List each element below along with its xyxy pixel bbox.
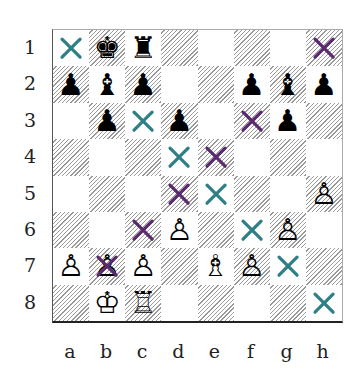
square-g8[interactable] bbox=[270, 285, 306, 321]
square-f8[interactable] bbox=[234, 285, 270, 321]
square-e7[interactable]: ♗ bbox=[198, 248, 234, 284]
square-d4[interactable] bbox=[161, 139, 197, 175]
square-a8[interactable] bbox=[53, 285, 89, 321]
square-f2[interactable]: ♟ bbox=[234, 66, 270, 102]
square-c3[interactable] bbox=[125, 103, 161, 139]
rank-label: 6 bbox=[20, 218, 40, 240]
white-piece-icon[interactable]: ♙ bbox=[130, 251, 157, 281]
square-c8[interactable]: ♖ bbox=[125, 285, 161, 321]
square-c2[interactable]: ♟ bbox=[125, 66, 161, 102]
square-e4[interactable] bbox=[198, 139, 234, 175]
square-e1[interactable] bbox=[198, 30, 234, 66]
square-b8[interactable]: ♔ bbox=[89, 285, 125, 321]
square-d8[interactable] bbox=[161, 285, 197, 321]
square-h7[interactable] bbox=[306, 248, 342, 284]
white-piece-icon[interactable]: ♙ bbox=[58, 251, 85, 281]
square-b5[interactable] bbox=[89, 176, 125, 212]
white-piece-icon[interactable]: ♙ bbox=[166, 215, 193, 245]
square-c7[interactable]: ♙ bbox=[125, 248, 161, 284]
white-piece-icon[interactable]: ♙ bbox=[94, 251, 121, 281]
rank-label: 2 bbox=[20, 72, 40, 94]
square-g1[interactable] bbox=[270, 30, 306, 66]
rank-label: 5 bbox=[20, 182, 40, 204]
square-h2[interactable]: ♟ bbox=[306, 66, 342, 102]
square-f6[interactable] bbox=[234, 212, 270, 248]
square-h8[interactable] bbox=[306, 285, 342, 321]
square-c1[interactable]: ♜ bbox=[125, 30, 161, 66]
square-d2[interactable] bbox=[161, 66, 197, 102]
square-a7[interactable]: ♙ bbox=[53, 248, 89, 284]
square-h5[interactable]: ♙ bbox=[306, 176, 342, 212]
rank-label: 8 bbox=[20, 291, 40, 313]
square-g6[interactable]: ♙ bbox=[270, 212, 306, 248]
square-f7[interactable]: ♙ bbox=[234, 248, 270, 284]
teal-cross-mark-icon bbox=[306, 285, 342, 321]
square-b6[interactable] bbox=[89, 212, 125, 248]
square-h6[interactable] bbox=[306, 212, 342, 248]
square-g3[interactable]: ♟ bbox=[270, 103, 306, 139]
square-f4[interactable] bbox=[234, 139, 270, 175]
black-piece-icon[interactable]: ♟ bbox=[166, 106, 193, 136]
square-a4[interactable] bbox=[53, 139, 89, 175]
white-piece-icon[interactable]: ♙ bbox=[310, 179, 337, 209]
black-piece-icon[interactable]: ♟ bbox=[310, 70, 337, 100]
square-g2[interactable]: ♝ bbox=[270, 66, 306, 102]
square-d7[interactable] bbox=[161, 248, 197, 284]
square-g4[interactable] bbox=[270, 139, 306, 175]
square-h1[interactable] bbox=[306, 30, 342, 66]
square-b2[interactable]: ♝ bbox=[89, 66, 125, 102]
square-c6[interactable] bbox=[125, 212, 161, 248]
black-piece-icon[interactable]: ♟ bbox=[238, 70, 265, 100]
square-d3[interactable]: ♟ bbox=[161, 103, 197, 139]
square-e8[interactable] bbox=[198, 285, 234, 321]
chess-board: ♚♜♟♝♟♟♝♟♟♟♟♙♙♙♙♙♙♗♙♔♖ bbox=[52, 29, 343, 323]
square-e5[interactable] bbox=[198, 176, 234, 212]
square-a5[interactable] bbox=[53, 176, 89, 212]
square-a1[interactable] bbox=[53, 30, 89, 66]
white-piece-icon[interactable]: ♗ bbox=[202, 251, 229, 281]
square-a2[interactable]: ♟ bbox=[53, 66, 89, 102]
teal-cross-mark-icon bbox=[125, 103, 161, 139]
square-d6[interactable]: ♙ bbox=[161, 212, 197, 248]
white-piece-icon[interactable]: ♔ bbox=[94, 288, 121, 318]
square-b4[interactable] bbox=[89, 139, 125, 175]
square-a6[interactable] bbox=[53, 212, 89, 248]
white-piece-icon[interactable]: ♙ bbox=[274, 215, 301, 245]
square-g7[interactable] bbox=[270, 248, 306, 284]
white-piece-icon[interactable]: ♙ bbox=[238, 251, 265, 281]
square-b1[interactable]: ♚ bbox=[89, 30, 125, 66]
square-b7[interactable]: ♙ bbox=[89, 248, 125, 284]
square-f3[interactable] bbox=[234, 103, 270, 139]
purple-cross-mark-icon bbox=[198, 139, 234, 175]
white-piece-icon[interactable]: ♖ bbox=[130, 288, 157, 318]
square-h3[interactable] bbox=[306, 103, 342, 139]
black-piece-icon[interactable]: ♟ bbox=[274, 106, 301, 136]
teal-cross-mark-icon bbox=[53, 30, 89, 66]
rank-label: 4 bbox=[20, 145, 40, 167]
square-f5[interactable] bbox=[234, 176, 270, 212]
square-a3[interactable] bbox=[53, 103, 89, 139]
black-piece-icon[interactable]: ♝ bbox=[94, 70, 121, 100]
black-piece-icon[interactable]: ♟ bbox=[58, 70, 85, 100]
rank-label: 7 bbox=[20, 254, 40, 276]
file-label: c bbox=[124, 340, 160, 362]
square-c5[interactable] bbox=[125, 176, 161, 212]
square-e3[interactable] bbox=[198, 103, 234, 139]
square-d5[interactable] bbox=[161, 176, 197, 212]
square-f1[interactable] bbox=[234, 30, 270, 66]
black-piece-icon[interactable]: ♚ bbox=[94, 33, 121, 63]
black-piece-icon[interactable]: ♟ bbox=[130, 70, 157, 100]
file-label: h bbox=[305, 340, 341, 362]
square-d1[interactable] bbox=[161, 30, 197, 66]
square-h4[interactable] bbox=[306, 139, 342, 175]
file-label: g bbox=[269, 340, 305, 362]
square-e2[interactable] bbox=[198, 66, 234, 102]
black-piece-icon[interactable]: ♝ bbox=[274, 70, 301, 100]
black-piece-icon[interactable]: ♟ bbox=[94, 106, 121, 136]
square-g5[interactable] bbox=[270, 176, 306, 212]
teal-cross-mark-icon bbox=[234, 212, 270, 248]
square-c4[interactable] bbox=[125, 139, 161, 175]
square-e6[interactable] bbox=[198, 212, 234, 248]
square-b3[interactable]: ♟ bbox=[89, 103, 125, 139]
black-piece-icon[interactable]: ♜ bbox=[130, 33, 157, 63]
